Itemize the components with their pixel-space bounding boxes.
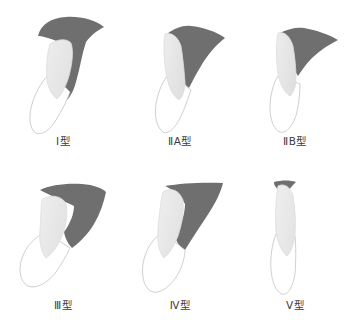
illustration-type-2b bbox=[240, 6, 350, 134]
panel-label-type-2a: ⅡA型 bbox=[125, 134, 235, 148]
panel-label-type-2b: ⅡB型 bbox=[240, 134, 350, 148]
illustration-type-4 bbox=[125, 170, 235, 298]
illustration-type-5 bbox=[240, 170, 350, 298]
panel-label-type-1: Ⅰ型 bbox=[8, 134, 118, 148]
panel-label-type-5: Ⅴ型 bbox=[240, 298, 350, 312]
illustration-type-3 bbox=[8, 170, 118, 298]
panel-type-3: Ⅲ型 bbox=[8, 170, 118, 312]
panel-type-2a: ⅡA型 bbox=[125, 6, 235, 148]
panel-type-5: Ⅴ型 bbox=[240, 170, 350, 312]
panel-type-1: Ⅰ型 bbox=[8, 6, 118, 148]
panel-label-type-3: Ⅲ型 bbox=[8, 298, 118, 312]
figure-root: Ⅰ型 ⅡA型 bbox=[0, 0, 361, 331]
panel-type-4: Ⅳ型 bbox=[125, 170, 235, 312]
illustration-type-2a bbox=[125, 6, 235, 134]
panel-label-type-4: Ⅳ型 bbox=[125, 298, 235, 312]
panel-type-2b: ⅡB型 bbox=[240, 6, 350, 148]
illustration-type-1 bbox=[8, 6, 118, 134]
